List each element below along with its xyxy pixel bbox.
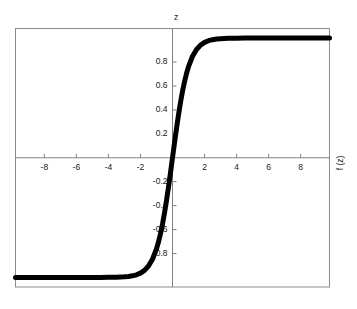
chart-title: z: [174, 12, 178, 22]
chart-figure: -8-6-4-22468 0.80.60.40.2-0.2-0.4-0.6-0.…: [0, 0, 357, 309]
y-tick-label: 0.4: [156, 104, 168, 114]
y-axis-label: f (z): [335, 156, 345, 171]
x-tick-label: 6: [266, 162, 271, 172]
x-tick-label: 4: [234, 162, 239, 172]
x-tick-label: -6: [73, 162, 81, 172]
y-tick-label: 0.8: [156, 56, 168, 66]
x-tick-label: -4: [105, 162, 113, 172]
x-tick-label: 2: [202, 162, 207, 172]
x-tick-label: -8: [41, 162, 49, 172]
y-tick-label: -0.2: [153, 176, 168, 186]
y-tick-label: 0.2: [156, 128, 168, 138]
figure-background: [0, 0, 357, 309]
y-tick-label: 0.6: [156, 80, 168, 90]
tanh-function-plot: -8-6-4-22468 0.80.60.40.2-0.2-0.4-0.6-0.…: [0, 0, 357, 309]
x-tick-label: 8: [298, 162, 303, 172]
x-tick-label: -2: [137, 162, 145, 172]
